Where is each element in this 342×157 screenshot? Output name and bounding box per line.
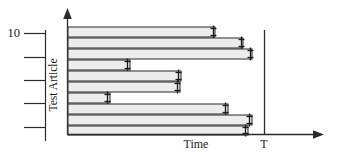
bar-2[interactable] <box>68 37 245 50</box>
figure-container: 10 Test Article <box>0 0 342 157</box>
bar-6-rect[interactable] <box>68 82 180 92</box>
bar-5-rect[interactable] <box>68 71 181 81</box>
bar-9[interactable] <box>68 114 253 127</box>
bar-7[interactable] <box>68 92 111 105</box>
bar-4-rect[interactable] <box>68 60 130 70</box>
bar-9-rect[interactable] <box>68 115 252 125</box>
x-axis-label: Time <box>184 137 209 151</box>
test-article-count-bracket <box>24 30 46 141</box>
y-axis-arrowhead <box>63 8 72 19</box>
bar-8[interactable] <box>68 103 229 116</box>
bar-2-rect[interactable] <box>68 38 243 48</box>
bar-7-rect[interactable] <box>68 93 110 103</box>
bar-1[interactable] <box>68 26 217 39</box>
test-article-count-label: 10 <box>8 26 21 40</box>
bar-3[interactable] <box>68 48 254 61</box>
bar-6[interactable] <box>68 81 181 94</box>
bar-8-rect[interactable] <box>68 104 228 114</box>
terminal-time-label: T <box>260 137 268 151</box>
y-axis-label: Test Article <box>47 58 59 111</box>
bar-1-rect[interactable] <box>68 27 215 37</box>
bar-10-rect[interactable] <box>68 126 248 135</box>
bar-chart-svg: 10 Test Article <box>0 0 342 157</box>
bar-3-rect[interactable] <box>68 49 252 59</box>
bar-5[interactable] <box>68 70 182 83</box>
bar-4[interactable] <box>68 59 131 72</box>
bar-series <box>68 26 254 137</box>
x-axis-arrowhead <box>313 130 324 139</box>
